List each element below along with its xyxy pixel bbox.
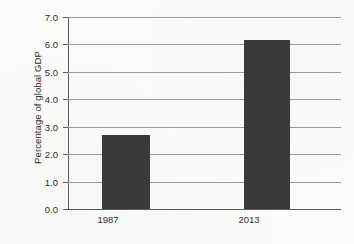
- bar-2013: [244, 40, 290, 209]
- gridline-7: [68, 17, 341, 18]
- bar-chart-figure: Percentage of global GDP 7.0 6.0 5.0 4.0…: [0, 0, 354, 244]
- x-axis-baseline: [68, 209, 341, 210]
- bar-1987: [102, 135, 150, 209]
- y-tick-label: 5.0: [18, 68, 58, 78]
- y-tick-label: 4.0: [18, 95, 58, 105]
- gridline-4: [68, 99, 341, 100]
- y-tick-label: 1.0: [18, 178, 58, 188]
- y-tick-label: 3.0: [18, 123, 58, 133]
- gridline-5: [68, 72, 341, 73]
- gridline-3: [68, 127, 341, 128]
- y-tick-label: 0.0: [18, 205, 58, 215]
- y-tick-label: 2.0: [18, 150, 58, 160]
- x-tick-label-2013: 2013: [223, 215, 275, 225]
- gridline-6: [68, 44, 341, 45]
- plot-area: [68, 17, 341, 209]
- y-tick-label: 7.0: [18, 13, 58, 23]
- x-tick-label-1987: 1987: [82, 215, 134, 225]
- y-tick-label: 6.0: [18, 40, 58, 50]
